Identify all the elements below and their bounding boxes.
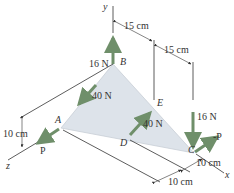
- dim-bottom-1-label: 10 cm: [196, 158, 221, 168]
- force-40n-de-label: 40 N: [143, 119, 163, 129]
- force-16n-down-label: 16 N: [197, 112, 217, 122]
- point-a-label: A: [55, 115, 61, 125]
- dim-bottom-2-label: 10 cm: [168, 177, 193, 187]
- force-40n-ba-label: 40 N: [92, 91, 112, 101]
- force-neg-p-label: -P: [213, 132, 222, 142]
- dim-top-1-label: 15 cm: [124, 21, 149, 31]
- point-b-label: B: [120, 57, 126, 67]
- point-e-label: E: [157, 98, 163, 108]
- y-axis-label: y: [103, 2, 107, 12]
- force-p-label: P: [40, 146, 46, 156]
- dim-top-2-label: 15 cm: [164, 45, 189, 55]
- x-axis-label: x: [225, 170, 229, 180]
- dim-left-label: 10 cm: [3, 129, 28, 139]
- point-c-label: C: [188, 145, 195, 155]
- z-axis-label: z: [6, 161, 10, 171]
- force-p-arrow: [38, 129, 59, 143]
- point-d-label: D: [120, 138, 127, 148]
- statics-diagram: y z x B A E D C 16 N 40 N 40 N 16 N P -P…: [0, 0, 234, 193]
- force-16n-up-label: 16 N: [89, 59, 109, 69]
